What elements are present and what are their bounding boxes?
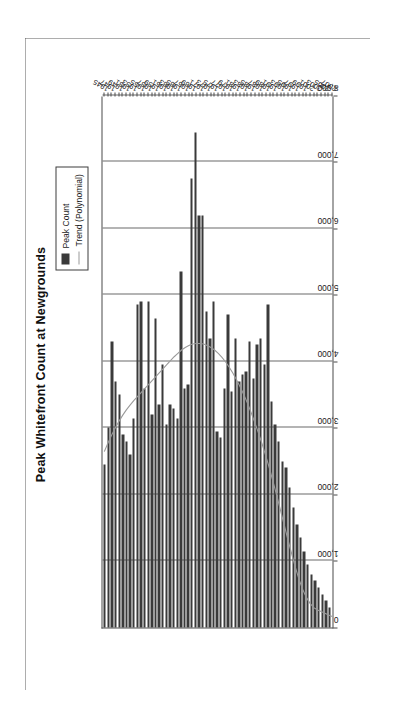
legend-bar-swatch-icon [61, 253, 69, 264]
category-axis-tick [258, 92, 259, 96]
value-axis-tick [333, 228, 337, 229]
legend-item-peak-count: Peak Count [60, 174, 70, 264]
category-axis-tick [114, 92, 115, 96]
category-axis-years: 1945194719491951195319551957195919611963… [101, 38, 333, 96]
legend-label-trend: Trend (Polynomial) [73, 174, 83, 246]
value-axis-label: 1,000 [317, 548, 338, 558]
bar-chart: Peak Whitefront Count at Newgrounds Peak… [25, 38, 370, 690]
value-axis-tick [333, 361, 337, 362]
category-axis-tick [129, 92, 130, 96]
category-axis-tick [158, 92, 159, 96]
value-axis-tick [333, 428, 337, 429]
category-axis-tick [224, 92, 225, 96]
category-axis-tick [195, 92, 196, 96]
chart-legend: Peak Count Trend (Polynomial) [55, 166, 88, 270]
category-axis-tick [246, 92, 247, 96]
value-axis-tick [333, 95, 337, 96]
category-axis-tick [320, 92, 321, 96]
category-axis-tick [239, 92, 240, 96]
value-axis-tick [333, 295, 337, 296]
category-axis-tick [283, 92, 284, 96]
value-axis-label: 5,000 [317, 282, 338, 292]
category-axis-tick [276, 92, 277, 96]
category-axis-tick [173, 92, 174, 96]
value-axis-label: 2,000 [317, 482, 338, 492]
category-axis-tick [327, 92, 328, 96]
category-axis-tick [298, 92, 299, 96]
category-axis-tick [165, 92, 166, 96]
value-axis-tick [333, 627, 337, 628]
value-axis-label: 3,000 [317, 415, 338, 425]
value-axis-label: 0 [333, 615, 338, 625]
value-axis-tick [333, 162, 337, 163]
category-axis-tick [261, 92, 262, 96]
legend-line-swatch-icon [78, 251, 79, 264]
value-axis-label: 7,000 [317, 149, 338, 159]
value-axis: 01,0002,0003,0004,0005,0006,0007,0008,00… [333, 96, 367, 628]
value-axis-label: 4,000 [317, 349, 338, 359]
category-axis-tick [232, 92, 233, 96]
legend-item-trend: Trend (Polynomial) [73, 174, 83, 264]
legend-label-peak-count: Peak Count [60, 203, 70, 248]
category-axis-tick [180, 92, 181, 96]
plot-area [101, 96, 333, 628]
category-axis-tick [136, 92, 137, 96]
category-axis-tick [151, 92, 152, 96]
category-axis-tick [107, 92, 108, 96]
category-axis-tick [143, 92, 144, 96]
category-axis-tick [291, 92, 292, 96]
value-axis-tick [333, 561, 337, 562]
category-axis-tick [269, 92, 270, 96]
category-axis-tick [202, 92, 203, 96]
chart-rotation-wrapper: Peak Whitefront Count at Newgrounds Peak… [25, 38, 370, 690]
category-axis-tick [305, 92, 306, 96]
category-axis-tick [217, 92, 218, 96]
trend-polynomial-line [102, 96, 334, 627]
category-axis-tick [313, 92, 314, 96]
value-axis-label: 6,000 [317, 216, 338, 226]
category-axis-tick [188, 92, 189, 96]
value-axis-tick [333, 494, 337, 495]
category-axis-tick [210, 92, 211, 96]
chart-title: Peak Whitefront Count at Newgrounds [33, 38, 47, 690]
category-axis-tick [121, 92, 122, 96]
category-axis-tick [254, 92, 255, 96]
